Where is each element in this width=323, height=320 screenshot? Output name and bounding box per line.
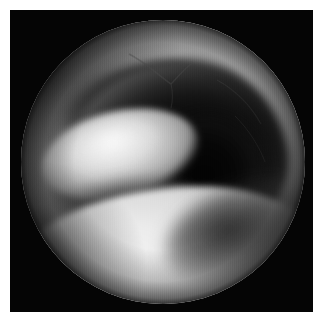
vessel-marking-icon bbox=[21, 20, 305, 304]
endoscope-field-of-view bbox=[21, 20, 305, 304]
figure-page bbox=[0, 0, 323, 320]
photo-frame bbox=[10, 10, 313, 312]
